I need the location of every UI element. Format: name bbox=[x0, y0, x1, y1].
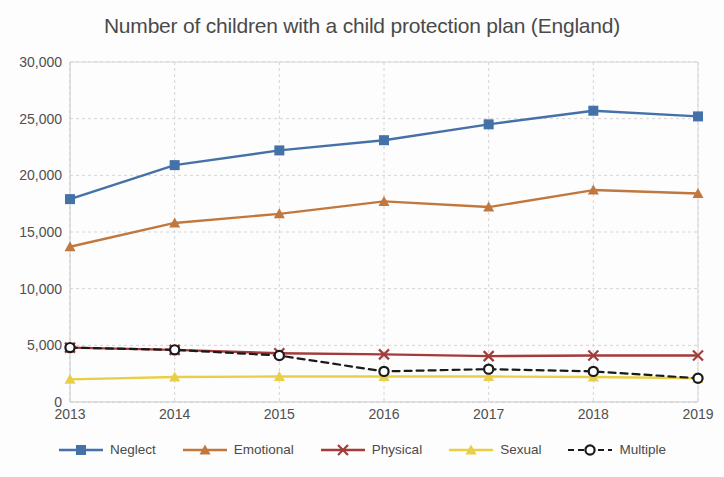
y-axis-tick-label: 25,000 bbox=[4, 111, 62, 127]
series-neglect-marker-square bbox=[588, 106, 598, 116]
legend-label: Neglect bbox=[110, 443, 156, 457]
line-chart: Number of children with a child protecti… bbox=[0, 0, 724, 477]
x-axis-tick-label: 2019 bbox=[663, 406, 724, 422]
y-axis-tick-label: 10,000 bbox=[4, 281, 62, 297]
series-multiple-marker-circle bbox=[65, 343, 74, 352]
legend-swatch-physical-icon bbox=[320, 443, 366, 457]
legend-label: Multiple bbox=[619, 443, 666, 457]
chart-legend: NeglectEmotionalPhysicalSexualMultiple bbox=[0, 443, 724, 457]
series-neglect-marker-square bbox=[484, 119, 494, 129]
legend-label: Physical bbox=[372, 443, 422, 457]
x-axis-tick-label: 2013 bbox=[35, 406, 105, 422]
legend-item-sexual[interactable]: Sexual bbox=[448, 443, 541, 457]
x-axis-tick-label: 2014 bbox=[140, 406, 210, 422]
series-neglect-marker-square bbox=[65, 194, 75, 204]
legend-label: Emotional bbox=[234, 443, 294, 457]
plot-area: 05,00010,00015,00020,00025,00030,000 201… bbox=[0, 0, 724, 430]
legend-item-neglect[interactable]: Neglect bbox=[58, 443, 156, 457]
series-neglect-marker-square bbox=[379, 135, 389, 145]
series-neglect-marker-square bbox=[693, 111, 703, 121]
series-neglect-marker-square bbox=[170, 160, 180, 170]
legend-swatch-neglect-icon bbox=[58, 443, 104, 457]
legend-swatch-emotional-icon bbox=[182, 443, 228, 457]
legend-item-multiple[interactable]: Multiple bbox=[567, 443, 666, 457]
series-multiple-marker-circle bbox=[379, 367, 388, 376]
x-axis-tick-label: 2015 bbox=[244, 406, 314, 422]
x-axis-tick-label: 2017 bbox=[454, 406, 524, 422]
x-axis-tick-label: 2016 bbox=[349, 406, 419, 422]
legend-neglect-marker-square bbox=[76, 445, 86, 455]
y-axis-tick-label: 15,000 bbox=[4, 224, 62, 240]
plot-svg bbox=[0, 0, 724, 430]
series-multiple-marker-circle bbox=[170, 345, 179, 354]
series-multiple-marker-circle bbox=[589, 367, 598, 376]
legend-swatch-sexual-icon bbox=[448, 443, 494, 457]
legend-label: Sexual bbox=[500, 443, 541, 457]
legend-item-physical[interactable]: Physical bbox=[320, 443, 422, 457]
y-axis-tick-label: 30,000 bbox=[4, 54, 62, 70]
y-axis-tick-label: 20,000 bbox=[4, 167, 62, 183]
series-multiple-marker-circle bbox=[275, 351, 284, 360]
series-neglect-marker-square bbox=[274, 145, 284, 155]
x-axis-tick-label: 2018 bbox=[558, 406, 628, 422]
legend-item-emotional[interactable]: Emotional bbox=[182, 443, 294, 457]
y-axis-tick-label: 5,000 bbox=[4, 337, 62, 353]
series-multiple-marker-circle bbox=[484, 365, 493, 374]
legend-swatch-multiple-icon bbox=[567, 443, 613, 457]
legend-multiple-marker-circle bbox=[586, 445, 595, 454]
series-multiple-marker-circle bbox=[693, 374, 702, 383]
